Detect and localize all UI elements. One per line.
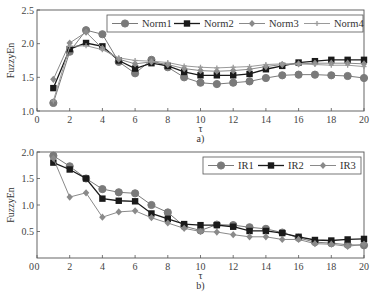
y-axis-label: FuzzyEn bbox=[5, 187, 16, 223]
series-line bbox=[53, 30, 364, 103]
legend-label: Norm1 bbox=[142, 18, 172, 29]
chart-panel-a: 024681012141618201.01.52.02.5τa)FuzzyEnN… bbox=[5, 5, 369, 146]
y-tick-label: 0.5 bbox=[22, 226, 35, 237]
circle-marker bbox=[246, 78, 253, 85]
diamond-marker bbox=[116, 208, 122, 215]
square-marker bbox=[344, 236, 350, 242]
x-tick-label: 12 bbox=[228, 261, 238, 272]
circle-marker bbox=[295, 71, 302, 78]
y-tick-label: 0 bbox=[29, 261, 34, 272]
diamond-marker bbox=[230, 231, 236, 238]
square-marker bbox=[230, 224, 236, 230]
x-tick-label: 18 bbox=[326, 261, 336, 272]
circle-marker bbox=[360, 74, 367, 81]
square-marker bbox=[132, 198, 138, 204]
circle-marker bbox=[115, 189, 122, 196]
x-tick-label: 16 bbox=[294, 114, 304, 125]
circle-marker bbox=[99, 31, 106, 38]
legend-label: IR3 bbox=[340, 160, 356, 171]
square-marker bbox=[184, 20, 190, 26]
x-tick-label: 14 bbox=[261, 114, 271, 125]
square-marker bbox=[268, 162, 274, 168]
diamond-marker bbox=[263, 233, 269, 240]
y-tick-label: 2.0 bbox=[22, 147, 35, 158]
circle-marker bbox=[148, 201, 155, 208]
circle-marker bbox=[217, 162, 224, 169]
legend-label: Norm3 bbox=[269, 18, 299, 29]
circle-marker bbox=[99, 186, 106, 193]
x-tick-label: 8 bbox=[165, 114, 170, 125]
diamond-marker bbox=[246, 233, 252, 240]
y-tick-label: 2.0 bbox=[22, 38, 35, 49]
x-tick-label: 8 bbox=[165, 261, 170, 272]
diamond-marker bbox=[67, 193, 73, 200]
circle-marker bbox=[344, 72, 351, 79]
legend-label: IR1 bbox=[238, 160, 254, 171]
circle-marker bbox=[328, 72, 335, 79]
legend: IR1IR2IR3 bbox=[203, 157, 361, 174]
panel-caption: b) bbox=[196, 280, 204, 292]
x-tick-label: 12 bbox=[228, 114, 238, 125]
y-axis-label: FuzzyEn bbox=[5, 43, 16, 79]
y-tick-label: 2.5 bbox=[22, 5, 35, 16]
panel-caption: a) bbox=[197, 133, 205, 145]
circle-marker bbox=[197, 79, 204, 86]
circle-marker bbox=[262, 74, 269, 81]
legend: Norm1Norm2Norm3Norm4 bbox=[107, 15, 364, 32]
figure: 024681012141618201.01.52.02.5τa)FuzzyEnN… bbox=[0, 0, 376, 297]
y-tick-label: 1.5 bbox=[22, 72, 35, 83]
x-tick-label: 16 bbox=[294, 261, 304, 272]
square-marker bbox=[83, 175, 89, 181]
chart-panel-b: 0246810121416182000.51.01.52.0τb)FuzzyEn… bbox=[5, 147, 369, 293]
x-tick-label: 4 bbox=[100, 114, 105, 125]
diamond-marker bbox=[132, 207, 138, 214]
square-marker bbox=[50, 85, 56, 91]
square-marker bbox=[214, 222, 220, 228]
y-tick-label: 1.0 bbox=[22, 200, 35, 211]
legend-label: Norm4 bbox=[334, 18, 364, 29]
diamond-marker bbox=[214, 228, 220, 235]
circle-marker bbox=[164, 209, 171, 216]
x-tick-label: 2 bbox=[67, 261, 72, 272]
x-tick-label: 18 bbox=[326, 114, 336, 125]
diamond-marker bbox=[279, 236, 285, 243]
x-tick-label: 4 bbox=[100, 261, 105, 272]
circle-marker bbox=[121, 20, 128, 27]
circle-marker bbox=[213, 80, 220, 87]
x-tick-label: 6 bbox=[133, 261, 138, 272]
legend-label: IR2 bbox=[288, 160, 304, 171]
y-tick-label: 1.5 bbox=[22, 173, 35, 184]
x-tick-label: 20 bbox=[359, 261, 369, 272]
y-tick-label: 1.0 bbox=[22, 106, 35, 117]
x-tick-label: 14 bbox=[261, 261, 271, 272]
legend-label: Norm2 bbox=[204, 18, 234, 29]
circle-marker bbox=[132, 190, 139, 197]
x-tick-label: 0 bbox=[35, 114, 40, 125]
square-marker bbox=[67, 166, 73, 172]
square-marker bbox=[99, 195, 105, 201]
circle-marker bbox=[279, 72, 286, 79]
series-norm1 bbox=[50, 27, 368, 107]
x-tick-label: 20 bbox=[359, 114, 369, 125]
series-norm4 bbox=[51, 43, 367, 103]
circle-marker bbox=[230, 79, 237, 86]
square-marker bbox=[197, 222, 203, 228]
square-marker bbox=[116, 198, 122, 204]
circle-marker bbox=[311, 71, 318, 78]
x-tick-label: 0 bbox=[35, 261, 40, 272]
x-tick-label: 2 bbox=[67, 114, 72, 125]
square-marker bbox=[279, 230, 285, 236]
x-tick-label: 6 bbox=[133, 114, 138, 125]
